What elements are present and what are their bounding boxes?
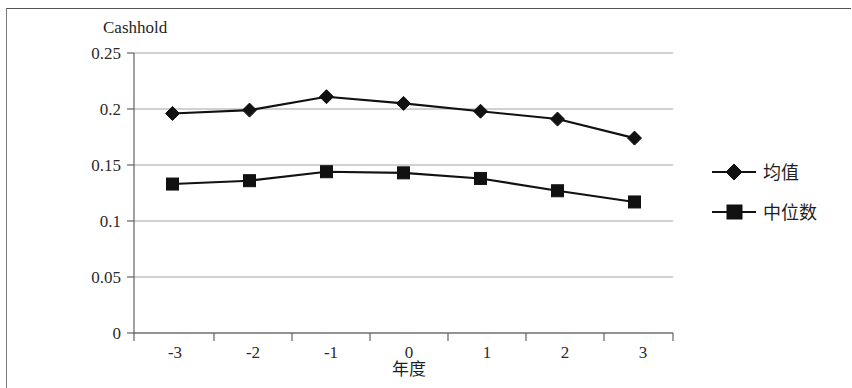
y-tick-label-0: 0.25 [91,44,121,63]
data-point-square [321,166,333,178]
y-axis [127,53,134,333]
y-tick-label-5: 0 [113,324,122,343]
x-tick-label-0: -3 [168,343,182,362]
data-point-square [244,175,256,187]
x-tick-label-6: 3 [639,343,648,362]
data-point-square [629,196,641,208]
chart-legend: 均值 中位数 [712,163,817,223]
data-point-square [167,178,179,190]
legend-label-median: 中位数 [763,203,817,223]
diamond-marker-icon [726,164,742,180]
x-tick-label-2: -1 [324,343,338,362]
legend-label-mean: 均值 [763,163,799,183]
plot-area-background [134,53,673,333]
y-tick-label-2: 0.15 [91,156,121,175]
x-tick-label-1: -2 [246,343,260,362]
data-point-square [398,167,410,179]
y-tick-label-3: 0.1 [100,212,121,231]
legend-item-mean[interactable]: 均值 [712,163,799,183]
legend-item-median[interactable]: 中位数 [712,203,817,223]
y-axis-tick-labels: 0.25 0.2 0.15 0.1 0.05 0 [91,44,121,343]
x-tick-label-4: 1 [483,343,492,362]
y-tick-label-1: 0.2 [100,100,121,119]
y-tick-label-4: 0.05 [91,268,121,287]
x-axis [134,333,673,341]
data-point-square [475,172,487,184]
x-axis-title: 年度 [392,360,426,379]
chart-title: Cashhold [103,18,168,37]
x-tick-label-5: 2 [561,343,570,362]
square-marker-icon [727,205,742,219]
data-point-square [552,185,564,197]
